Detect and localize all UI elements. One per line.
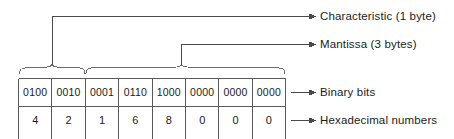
floating-point-format-diagram: Characteristic (1 byte) Mantissa (3 byte… bbox=[0, 0, 454, 139]
brace-mantissa bbox=[86, 65, 285, 74]
callout-label-characteristic: Characteristic (1 byte) bbox=[320, 10, 436, 22]
binary-cell-6: 0000 bbox=[186, 86, 219, 98]
binary-cell-7: 0000 bbox=[219, 86, 252, 98]
hex-cell-6: 0 bbox=[186, 114, 219, 126]
leader-line-mantissa bbox=[182, 45, 310, 65]
binary-cell-3: 0001 bbox=[85, 86, 118, 98]
binary-cell-4: 0110 bbox=[119, 86, 152, 98]
arrowhead-hexadecimal-numbers bbox=[309, 117, 317, 123]
hex-cell-4: 6 bbox=[119, 114, 152, 126]
callout-label-mantissa: Mantissa (3 bytes) bbox=[320, 38, 417, 50]
brace-characteristic bbox=[20, 65, 86, 74]
hex-cell-2: 2 bbox=[52, 114, 85, 126]
binary-cell-2: 0010 bbox=[52, 86, 85, 98]
arrowhead-binary-bits bbox=[309, 89, 317, 95]
hex-cell-5: 8 bbox=[152, 114, 185, 126]
hex-cell-8: 0 bbox=[252, 114, 285, 126]
hex-cell-3: 1 bbox=[85, 114, 118, 126]
binary-cell-1: 0100 bbox=[19, 86, 52, 98]
hex-cell-7: 0 bbox=[219, 114, 252, 126]
row-label-hexadecimal-numbers: Hexadecimal numbers bbox=[320, 114, 437, 126]
hex-cell-1: 4 bbox=[19, 114, 52, 126]
binary-cell-8: 0000 bbox=[252, 86, 285, 98]
arrowhead-characteristic bbox=[309, 13, 317, 19]
leader-line-characteristic bbox=[52, 17, 310, 65]
binary-cell-5: 1000 bbox=[152, 86, 185, 98]
arrowhead-mantissa bbox=[309, 41, 317, 47]
row-label-binary-bits: Binary bits bbox=[320, 86, 375, 98]
